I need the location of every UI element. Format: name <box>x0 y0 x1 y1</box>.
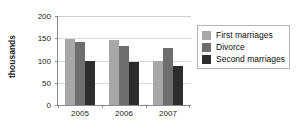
bar-second-marriages-2006 <box>129 62 139 105</box>
y-tick-label-0: 0 <box>25 101 51 110</box>
bar-divorce-2005 <box>75 42 85 105</box>
bar-group-2007 <box>146 16 190 105</box>
x-tick-label-2006: 2006 <box>102 109 146 123</box>
x-tick-mark-3 <box>189 105 190 108</box>
legend-item-divorce: Divorce <box>201 41 285 53</box>
bar-second-marriages-2007 <box>173 66 183 105</box>
y-tick-label-200: 200 <box>25 12 51 21</box>
legend-swatch-second-marriages <box>201 54 212 65</box>
x-tick-mark-2 <box>146 105 147 108</box>
bar-first-marriages-2006 <box>109 40 119 105</box>
y-tick-label-50: 50 <box>25 78 51 87</box>
bar-groups <box>58 16 190 105</box>
bar-first-marriages-2005 <box>65 39 75 105</box>
bar-first-marriages-2007 <box>153 61 163 105</box>
bar-divorce-2006 <box>119 46 129 105</box>
y-tick-label-100: 100 <box>25 56 51 65</box>
chart-legend: First marriages Divorce Second marriages <box>197 25 290 69</box>
legend-swatch-first-marriages <box>201 30 212 41</box>
bar-group-2005 <box>58 16 102 105</box>
x-tick-mark-0 <box>58 105 59 108</box>
x-tick-mark-1 <box>102 105 103 108</box>
y-axis-title: thousands <box>2 0 22 112</box>
x-tick-label-2005: 2005 <box>58 109 102 123</box>
bar-divorce-2007 <box>163 48 173 105</box>
y-tick-label-150: 150 <box>25 34 51 43</box>
legend-label-divorce: Divorce <box>216 42 245 52</box>
bar-group-2006 <box>102 16 146 105</box>
y-axis-title-text: thousands <box>7 35 17 78</box>
x-axis-labels: 2005 2006 2007 <box>58 109 190 123</box>
legend-swatch-divorce <box>201 42 212 53</box>
bar-chart: thousands 200 150 100 50 0 <box>0 0 297 132</box>
bar-second-marriages-2005 <box>85 61 95 105</box>
x-tick-label-2007: 2007 <box>146 109 190 123</box>
legend-label-second-marriages: Second marriages <box>216 54 285 64</box>
legend-item-first-marriages: First marriages <box>201 29 285 41</box>
legend-item-second-marriages: Second marriages <box>201 53 285 65</box>
legend-label-first-marriages: First marriages <box>216 30 273 40</box>
